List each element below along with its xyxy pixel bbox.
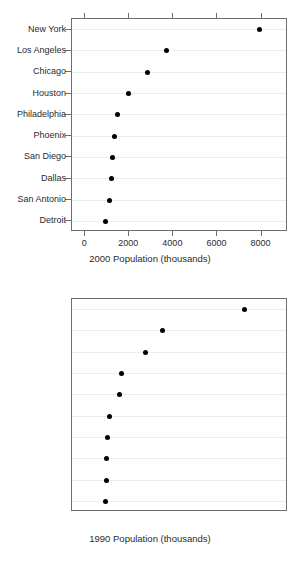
- gridline: [72, 29, 286, 30]
- x-axis-title-2000: 2000 Population (thousands): [0, 253, 300, 264]
- x-axis-tick-label: 0: [82, 239, 87, 248]
- y-axis-label-philadelphia: Philadelphia: [17, 109, 66, 118]
- gridline: [72, 352, 286, 353]
- dot-plot-panel-2000: New YorkLos AngelesChicagoHoustonPhilade…: [0, 0, 300, 280]
- data-point: [105, 435, 110, 440]
- data-point: [164, 48, 169, 53]
- gridline: [72, 93, 286, 94]
- y-axis-label-detroit: Detroit: [39, 216, 66, 225]
- gridline: [72, 330, 286, 331]
- dot-plot-panel-1990: New YorkLos AngelesChicagoHoustonPhilade…: [0, 280, 300, 561]
- x-axis-tick-top: [172, 13, 173, 18]
- x-axis-tick: [216, 231, 217, 236]
- data-point: [112, 134, 117, 139]
- gridline: [72, 72, 286, 73]
- y-axis-label-los-angeles: Los Angeles: [17, 45, 66, 54]
- gridline: [72, 394, 286, 395]
- data-point: [242, 307, 247, 312]
- x-axis-tick-label: 2000: [118, 239, 138, 248]
- x-axis-tick-label: 6000: [206, 239, 226, 248]
- gridline: [72, 50, 286, 51]
- data-point: [160, 328, 165, 333]
- y-axis-label-phoenix: Phoenix: [33, 131, 66, 140]
- data-point: [117, 392, 122, 397]
- data-point: [115, 112, 120, 117]
- y-axis-label-houston: Houston: [32, 88, 66, 97]
- y-axis-label-dallas: Dallas: [41, 173, 66, 182]
- gridline: [72, 157, 286, 158]
- x-axis-tick-top: [261, 13, 262, 18]
- plot-area-2000: [71, 18, 287, 231]
- data-point: [107, 198, 112, 203]
- gridline: [72, 309, 286, 310]
- y-axis-label-chicago: Chicago: [33, 67, 66, 76]
- x-axis-tick: [128, 231, 129, 236]
- data-point: [104, 456, 109, 461]
- x-axis-tick-top: [128, 13, 129, 18]
- x-axis-tick: [261, 231, 262, 236]
- data-point: [103, 499, 108, 504]
- data-point: [110, 155, 115, 160]
- plot-area-1990: [71, 298, 287, 511]
- data-point: [257, 27, 262, 32]
- x-axis-title-1990: 1990 Population (thousands): [0, 533, 300, 544]
- gridline: [72, 373, 286, 374]
- gridline: [72, 200, 286, 201]
- data-point: [143, 350, 148, 355]
- gridline: [72, 178, 286, 179]
- y-axis-label-san-diego: San Diego: [24, 152, 66, 161]
- x-axis-tick-top: [216, 13, 217, 18]
- gridline: [72, 416, 286, 417]
- gridline: [72, 136, 286, 137]
- data-point: [109, 176, 114, 181]
- data-point: [126, 91, 131, 96]
- y-axis-label-san-antonio: San Antonio: [17, 195, 66, 204]
- x-axis-tick-label: 4000: [162, 239, 182, 248]
- data-point: [145, 70, 150, 75]
- gridline: [72, 114, 286, 115]
- x-axis-tick-top: [84, 13, 85, 18]
- data-point: [119, 371, 124, 376]
- data-point: [103, 219, 108, 224]
- x-axis-tick-label: 8000: [251, 239, 271, 248]
- x-axis-tick: [172, 231, 173, 236]
- data-point: [107, 414, 112, 419]
- x-axis-tick: [84, 231, 85, 236]
- y-axis-label-new-york: New York: [28, 24, 66, 33]
- figure-canvas: New YorkLos AngelesChicagoHoustonPhilade…: [0, 0, 300, 561]
- gridline: [72, 437, 286, 438]
- data-point: [104, 478, 109, 483]
